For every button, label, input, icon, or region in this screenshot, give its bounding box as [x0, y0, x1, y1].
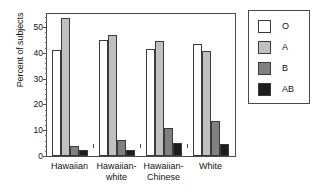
bar-ab [173, 143, 182, 156]
bar-a [202, 51, 211, 156]
bar-b [70, 146, 79, 156]
y-tick-label: 40 [21, 49, 43, 57]
bar-a [108, 35, 117, 156]
plot-area: 01020304050 [46, 13, 236, 157]
bar-b [117, 140, 126, 156]
bar-ab [220, 144, 229, 156]
x-tick-mark [140, 144, 141, 148]
y-tick-label: 20 [21, 100, 43, 108]
bar-group [94, 14, 141, 156]
y-tick-label: 50 [21, 23, 43, 31]
legend-label: B [282, 64, 288, 73]
bar-a [155, 41, 164, 156]
x-tick-mark [187, 144, 188, 148]
bar-ab [79, 150, 88, 156]
legend-label: O [282, 22, 289, 31]
legend-label: AB [282, 85, 294, 94]
bar-b [164, 128, 173, 156]
legend-item-b[interactable]: B [258, 62, 288, 75]
legend-swatch-a [258, 41, 271, 54]
bar-o [146, 49, 155, 156]
legend: OABAB [248, 10, 310, 104]
bar-o [193, 44, 202, 156]
legend-item-o[interactable]: O [258, 20, 289, 33]
bar-ab [126, 150, 135, 156]
y-tick-label: 10 [21, 126, 43, 134]
plot-inner: 01020304050 [47, 14, 235, 156]
bar-o [52, 50, 61, 156]
legend-swatch-o [258, 20, 271, 33]
legend-swatch-b [258, 62, 271, 75]
bar-group [141, 14, 188, 156]
legend-label: A [282, 43, 288, 52]
legend-item-ab[interactable]: AB [258, 83, 294, 96]
x-axis-label: White [180, 161, 241, 172]
bar-group [188, 14, 235, 156]
x-tick-mark [93, 144, 94, 148]
bar-b [211, 121, 220, 156]
y-tick-mark [43, 156, 47, 157]
bar-o [99, 40, 108, 156]
bar-group [47, 14, 94, 156]
legend-item-a[interactable]: A [258, 41, 288, 54]
bar-chart-figure: Percent of subjects 01020304050 OABAB Ha… [0, 0, 319, 194]
y-tick-label: 30 [21, 75, 43, 83]
y-tick-label: 0 [21, 152, 43, 160]
bar-a [61, 18, 70, 156]
legend-swatch-ab [258, 83, 271, 96]
